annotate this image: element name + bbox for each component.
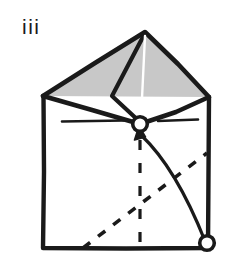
corner-vertex-marker: [200, 236, 215, 251]
origami-diagram-figure: iii: [0, 0, 242, 276]
center-vertex-marker: [133, 117, 148, 132]
figure-canvas: [0, 0, 242, 276]
crease-mark-left: [62, 121, 124, 122]
crease-mark-right: [158, 120, 198, 122]
step-label: iii: [22, 16, 41, 37]
